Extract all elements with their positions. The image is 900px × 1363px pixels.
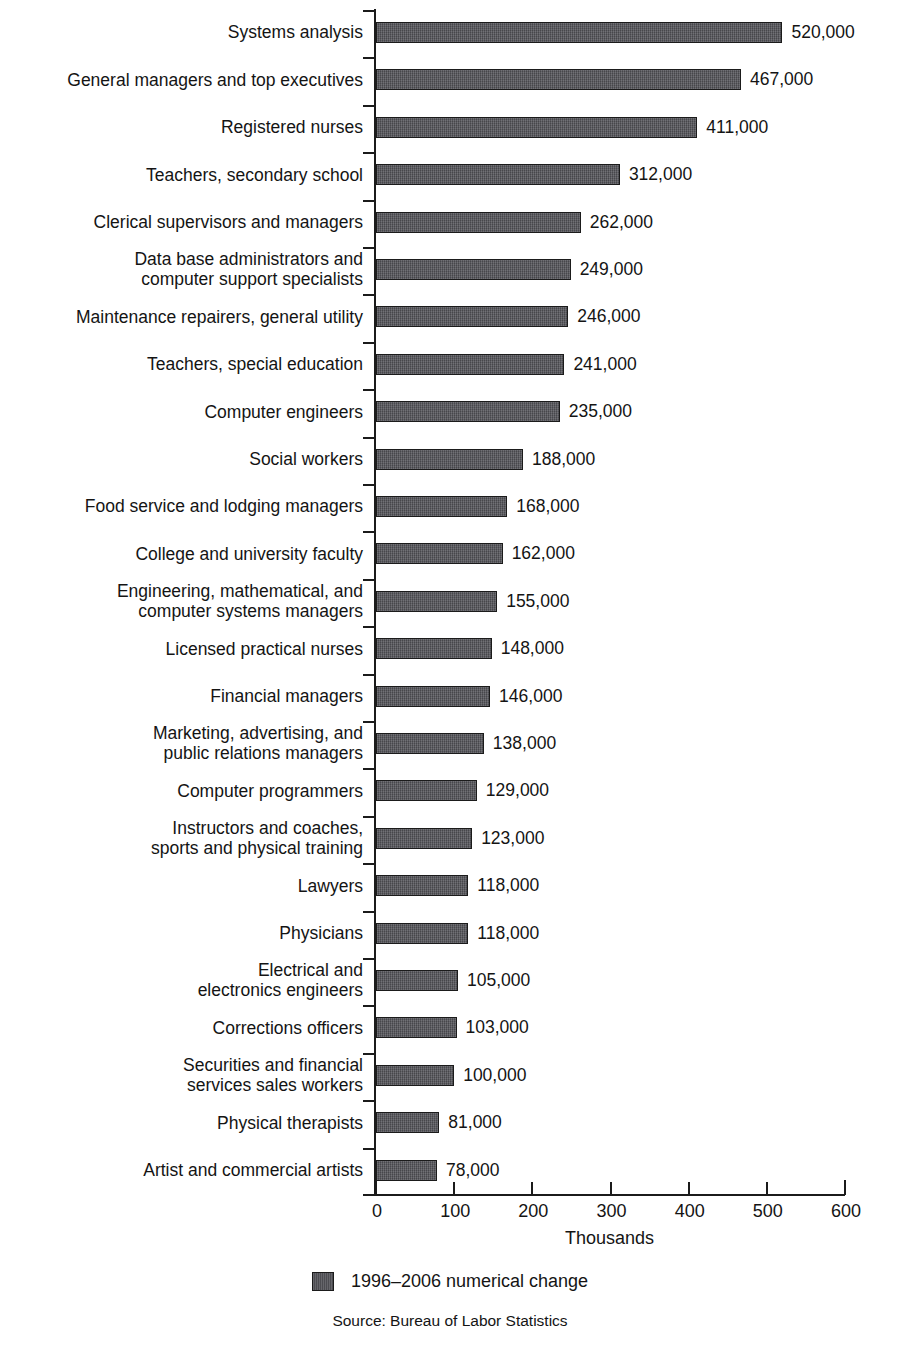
bar [376, 875, 468, 896]
bar-row: Lawyers118,000 [0, 862, 900, 909]
category-label: Securities and financial services sales … [0, 1052, 372, 1099]
category-label: Lawyers [0, 862, 372, 909]
bar [376, 449, 523, 470]
bar [376, 638, 492, 659]
category-label: College and university faculty [0, 530, 372, 577]
bar-row: Financial managers146,000 [0, 673, 900, 720]
bar-row: Registered nurses411,000 [0, 104, 900, 151]
category-label: Clerical supervisors and managers [0, 199, 372, 246]
bar [376, 1112, 439, 1133]
x-axis-tick [610, 1182, 612, 1195]
bar-value-label: 138,000 [493, 731, 556, 755]
category-label: Corrections officers [0, 1004, 372, 1051]
y-axis-tick [363, 1148, 375, 1150]
bar-wrapper [376, 1112, 439, 1133]
bar-row: Instructors and coaches, sports and phys… [0, 815, 900, 862]
bar-row: Computer engineers235,000 [0, 388, 900, 435]
bar-wrapper [376, 591, 497, 612]
bar-value-label: 148,000 [501, 636, 564, 660]
bar-value-label: 123,000 [481, 826, 544, 850]
bar-wrapper [376, 780, 477, 801]
bar-wrapper [376, 970, 458, 991]
y-axis-tick [363, 1053, 375, 1055]
category-label: Data base administrators and computer su… [0, 246, 372, 293]
bar-value-label: 411,000 [706, 115, 768, 139]
y-axis-tick [363, 484, 375, 486]
x-axis-tick [844, 1180, 846, 1195]
bar-row: Social workers188,000 [0, 436, 900, 483]
x-axis-tick-label: 100 [425, 1200, 485, 1222]
bar [376, 69, 741, 90]
bar-row: Teachers, secondary school312,000 [0, 151, 900, 198]
y-axis-tick [363, 105, 375, 107]
y-axis-tick [363, 911, 375, 913]
y-axis-tick [363, 1194, 375, 1196]
category-label: Financial managers [0, 673, 372, 720]
x-axis-tick-label: 0 [347, 1200, 407, 1222]
bar-value-label: 118,000 [477, 873, 539, 897]
y-axis-tick [363, 57, 375, 59]
bar-row: General managers and top executives467,0… [0, 56, 900, 103]
y-axis-tick [363, 1100, 375, 1102]
category-label: Teachers, secondary school [0, 151, 372, 198]
y-axis-tick [363, 10, 375, 12]
category-label: Engineering, mathematical, and computer … [0, 578, 372, 625]
bar [376, 733, 484, 754]
bar [376, 1017, 457, 1038]
category-label: Registered nurses [0, 104, 372, 151]
bar [376, 259, 571, 280]
bar-wrapper [376, 828, 472, 849]
bar-wrapper [376, 923, 468, 944]
bar-wrapper [376, 1017, 457, 1038]
category-label: Systems analysis [0, 9, 372, 56]
bar-row: Engineering, mathematical, and computer … [0, 578, 900, 625]
bar-value-label: 467,000 [750, 67, 813, 91]
x-axis-tick-label: 600 [816, 1200, 876, 1222]
x-axis-tick-label: 200 [503, 1200, 563, 1222]
y-axis-tick [363, 342, 375, 344]
category-label: Social workers [0, 436, 372, 483]
legend: 1996–2006 numerical change [0, 1271, 900, 1292]
category-label: Electrical and electronics engineers [0, 957, 372, 1004]
bar-row: Maintenance repairers, general utility24… [0, 293, 900, 340]
x-axis-tick [375, 1180, 377, 1195]
bar-wrapper [376, 1065, 454, 1086]
y-axis-tick [363, 389, 375, 391]
bar-row: Data base administrators and computer su… [0, 246, 900, 293]
category-label: Physicians [0, 910, 372, 957]
source-note: Source: Bureau of Labor Statistics [0, 1312, 900, 1330]
x-axis-tick [531, 1182, 533, 1195]
y-axis-tick [363, 768, 375, 770]
bar-wrapper [376, 449, 523, 470]
bar-value-label: 520,000 [791, 20, 854, 44]
bar-row: College and university faculty162,000 [0, 530, 900, 577]
bar-chart-figure: Systems analysis520,000General managers … [0, 0, 900, 1363]
bar-wrapper [376, 212, 581, 233]
category-label: Artist and commercial artists [0, 1147, 372, 1194]
bar-row: Corrections officers103,000 [0, 1004, 900, 1051]
bar-wrapper [376, 164, 620, 185]
y-axis-tick [363, 531, 375, 533]
category-label: General managers and top executives [0, 56, 372, 103]
category-label: Teachers, special education [0, 341, 372, 388]
bar-value-label: 168,000 [516, 494, 579, 518]
bar-wrapper [376, 638, 492, 659]
y-axis-tick [363, 152, 375, 154]
bar-wrapper [376, 543, 503, 564]
bar-value-label: 155,000 [506, 589, 569, 613]
bar-row: Licensed practical nurses148,000 [0, 625, 900, 672]
bar-wrapper [376, 259, 571, 280]
y-axis-tick [363, 958, 375, 960]
bar [376, 401, 560, 422]
bar [376, 496, 507, 517]
bar-value-label: 249,000 [580, 257, 643, 281]
x-axis-tick [453, 1182, 455, 1195]
category-label: Maintenance repairers, general utility [0, 293, 372, 340]
bar-value-label: 129,000 [486, 778, 549, 802]
category-label: Licensed practical nurses [0, 625, 372, 672]
y-axis-tick [363, 626, 375, 628]
x-axis-title: Thousands [374, 1228, 845, 1249]
bar-row: Marketing, advertising, and public relat… [0, 720, 900, 767]
bar [376, 591, 497, 612]
category-label: Physical therapists [0, 1099, 372, 1146]
